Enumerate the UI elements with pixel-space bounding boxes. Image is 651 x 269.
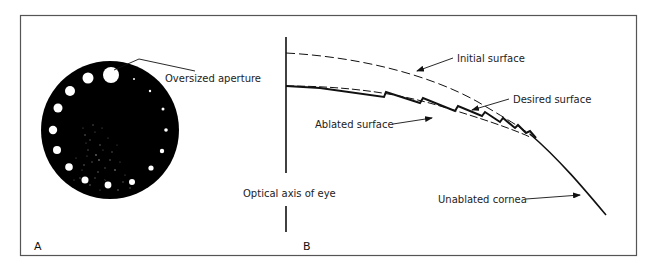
label-initial-surface: Initial surface — [457, 53, 525, 64]
arrow-desired-surface — [472, 99, 509, 110]
ablated-surface-curve — [286, 86, 536, 138]
label-unablated-cornea: Unablated cornea — [438, 194, 527, 205]
unablated-cornea-curve — [530, 134, 606, 215]
label-desired-surface: Desired surface — [513, 94, 591, 105]
panel-label-a: A — [34, 240, 42, 253]
arrow-ablated-surface — [393, 118, 432, 124]
arrow-initial-surface — [417, 58, 453, 71]
arrow-unablated-cornea — [526, 195, 580, 199]
panel-a: Oversized aperture A — [34, 59, 261, 253]
label-ablated-surface: Ablated surface — [315, 119, 394, 130]
label-oversized-aperture: Oversized aperture — [165, 73, 261, 84]
figure: Oversized aperture A Optical axis of eye… — [0, 0, 651, 269]
label-optical-axis: Optical axis of eye — [243, 188, 336, 199]
oversized-aperture-hole — [103, 67, 119, 83]
panel-b: Optical axis of eye Initial surface Desi… — [243, 37, 606, 253]
panel-label-b: B — [303, 240, 311, 253]
